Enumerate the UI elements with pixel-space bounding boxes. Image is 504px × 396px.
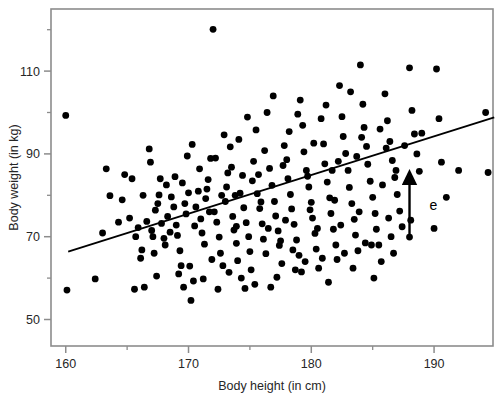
data-point <box>379 182 386 189</box>
data-point <box>270 93 277 100</box>
data-point <box>361 124 368 131</box>
data-point <box>146 146 153 153</box>
data-point <box>323 102 330 109</box>
data-point <box>332 242 339 249</box>
data-point <box>215 286 222 293</box>
data-point <box>294 111 301 118</box>
data-point <box>262 250 269 257</box>
data-point <box>103 165 110 172</box>
data-point <box>107 192 114 199</box>
data-point <box>201 241 208 248</box>
data-point <box>310 140 317 147</box>
data-point <box>181 200 188 207</box>
data-point <box>341 250 348 257</box>
data-point <box>261 147 268 154</box>
data-point <box>212 155 219 162</box>
data-point <box>202 195 209 202</box>
data-point <box>334 256 341 263</box>
data-point <box>250 158 257 165</box>
data-point <box>156 191 163 198</box>
data-point <box>272 213 279 220</box>
data-point <box>180 284 187 291</box>
data-point <box>299 122 306 129</box>
data-point <box>391 174 398 181</box>
data-point <box>255 171 262 178</box>
data-point <box>416 168 423 175</box>
data-point <box>339 113 346 120</box>
data-point <box>388 233 395 240</box>
data-point <box>219 262 226 269</box>
data-point <box>233 240 240 247</box>
data-point <box>129 175 136 182</box>
data-point <box>385 215 392 222</box>
data-point <box>418 130 425 137</box>
data-point <box>321 160 328 167</box>
data-point <box>356 208 363 215</box>
data-point <box>157 175 164 182</box>
data-point <box>151 250 158 257</box>
data-point <box>137 255 144 262</box>
data-point <box>197 215 204 222</box>
data-point <box>367 178 374 185</box>
data-point <box>337 222 344 229</box>
y-tick-label: 90 <box>26 147 40 161</box>
data-point <box>99 230 106 237</box>
data-point <box>370 275 377 282</box>
x-tick-label: 160 <box>55 357 76 371</box>
data-point <box>186 263 193 270</box>
data-point <box>303 167 310 174</box>
data-point <box>216 234 223 241</box>
data-point <box>314 225 321 232</box>
data-point <box>350 265 357 272</box>
data-point <box>292 266 299 273</box>
data-point <box>389 157 396 164</box>
data-point <box>243 219 250 226</box>
data-point <box>431 225 438 232</box>
data-point <box>358 134 365 141</box>
y-tick-label: 70 <box>26 230 40 244</box>
data-point <box>147 159 154 166</box>
data-point <box>382 90 389 97</box>
data-point <box>126 215 133 222</box>
data-point <box>138 247 145 254</box>
data-point <box>149 233 156 240</box>
x-tick-label: 190 <box>424 357 445 371</box>
data-point <box>189 141 196 148</box>
data-point <box>148 227 155 234</box>
data-point <box>351 216 358 223</box>
data-point <box>308 199 315 206</box>
data-point <box>301 148 308 155</box>
x-tick-label: 180 <box>301 357 322 371</box>
data-point <box>386 138 393 145</box>
data-point <box>143 218 150 225</box>
data-point <box>266 165 273 172</box>
data-point <box>325 279 332 286</box>
data-point <box>433 66 440 73</box>
data-point <box>192 203 199 210</box>
data-point <box>293 237 300 244</box>
data-point <box>278 260 285 267</box>
data-point <box>258 199 265 206</box>
data-point <box>196 165 203 172</box>
data-point <box>185 189 192 196</box>
data-point <box>283 156 290 163</box>
data-point <box>369 194 376 201</box>
data-point <box>315 265 322 272</box>
data-point <box>274 274 281 281</box>
data-point <box>173 222 180 229</box>
data-point <box>218 192 225 199</box>
data-point <box>346 184 353 191</box>
y-axis-title: Body weight (in kg) <box>7 124 21 230</box>
data-point <box>271 198 278 205</box>
data-point <box>335 158 342 165</box>
data-point <box>282 217 289 224</box>
data-point <box>64 287 71 294</box>
data-point <box>296 252 303 259</box>
data-point <box>245 233 252 240</box>
data-point <box>305 184 312 191</box>
data-point <box>199 230 206 237</box>
data-point <box>359 101 366 108</box>
data-point <box>235 136 242 143</box>
data-point <box>228 164 235 171</box>
data-point <box>213 219 220 226</box>
